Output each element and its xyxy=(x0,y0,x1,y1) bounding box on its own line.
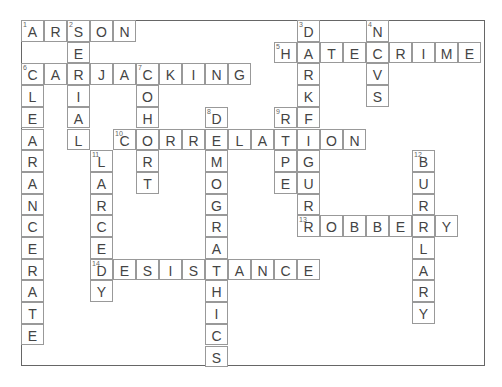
crossword-cell[interactable]: O xyxy=(320,129,343,151)
crossword-cell[interactable]: U xyxy=(297,172,320,194)
crossword-cell[interactable]: G xyxy=(205,194,228,216)
crossword-cell[interactable]: J xyxy=(90,63,113,85)
crossword-cell[interactable]: I xyxy=(412,42,435,64)
crossword-cell[interactable]: A xyxy=(90,172,113,194)
crossword-cell[interactable]: F xyxy=(297,107,320,129)
crossword-cell[interactable]: A xyxy=(21,172,44,194)
crossword-cell[interactable]: B xyxy=(366,215,389,237)
crossword-cell[interactable]: A xyxy=(21,129,44,151)
crossword-cell[interactable]: P xyxy=(274,150,297,172)
crossword-cell[interactable]: L xyxy=(21,85,44,107)
crossword-cell[interactable]: A xyxy=(251,129,274,151)
crossword-cell[interactable]: R xyxy=(67,63,90,85)
crossword-cell[interactable]: 11L xyxy=(90,150,113,172)
crossword-cell[interactable]: 12B xyxy=(412,150,435,172)
crossword-cell[interactable]: O xyxy=(136,129,159,151)
crossword-cell[interactable]: N xyxy=(205,63,228,85)
crossword-cell[interactable]: L xyxy=(412,237,435,259)
crossword-cell[interactable]: B xyxy=(343,215,366,237)
crossword-cell[interactable]: L xyxy=(228,129,251,151)
crossword-cell[interactable]: C xyxy=(205,324,228,346)
crossword-cell[interactable]: R xyxy=(90,194,113,216)
crossword-cell[interactable]: S xyxy=(136,259,159,281)
crossword-cell[interactable]: A xyxy=(113,63,136,85)
crossword-cell[interactable]: T xyxy=(205,259,228,281)
crossword-cell[interactable]: A xyxy=(67,107,90,129)
crossword-cell[interactable]: A xyxy=(297,42,320,64)
crossword-cell[interactable]: Y xyxy=(412,302,435,324)
crossword-cell[interactable]: T xyxy=(21,302,44,324)
crossword-cell[interactable]: K xyxy=(159,63,182,85)
crossword-cell[interactable]: R xyxy=(412,215,435,237)
crossword-cell[interactable]: E xyxy=(343,42,366,64)
crossword-cell[interactable]: A xyxy=(205,237,228,259)
crossword-cell[interactable]: I xyxy=(182,63,205,85)
crossword-cell[interactable]: E xyxy=(389,215,412,237)
crossword-cell[interactable]: E xyxy=(21,107,44,129)
crossword-cell[interactable]: O xyxy=(136,85,159,107)
crossword-cell[interactable]: R xyxy=(44,20,67,42)
crossword-cell[interactable]: O xyxy=(320,215,343,237)
crossword-cell[interactable]: A xyxy=(228,259,251,281)
crossword-cell[interactable]: T xyxy=(320,42,343,64)
crossword-cell[interactable]: 5H xyxy=(274,42,297,64)
crossword-cell[interactable]: H xyxy=(205,280,228,302)
crossword-cell[interactable]: E xyxy=(67,42,90,64)
crossword-cell[interactable]: I xyxy=(159,259,182,281)
crossword-cell[interactable]: M xyxy=(435,42,458,64)
crossword-cell[interactable]: 9R xyxy=(274,107,297,129)
crossword-cell[interactable]: 14D xyxy=(90,259,113,281)
crossword-cell[interactable]: R xyxy=(389,42,412,64)
crossword-cell[interactable]: S xyxy=(205,346,228,368)
crossword-cell[interactable]: I xyxy=(205,302,228,324)
crossword-cell[interactable]: N xyxy=(21,194,44,216)
crossword-cell[interactable]: 7C xyxy=(136,63,159,85)
crossword-cell[interactable]: R xyxy=(136,150,159,172)
crossword-cell[interactable]: R xyxy=(159,129,182,151)
crossword-cell[interactable]: O xyxy=(90,20,113,42)
crossword-cell[interactable]: C xyxy=(366,42,389,64)
crossword-cell[interactable]: K xyxy=(297,85,320,107)
crossword-cell[interactable]: C xyxy=(21,215,44,237)
crossword-cell[interactable]: M xyxy=(205,150,228,172)
crossword-cell[interactable]: R xyxy=(182,129,205,151)
crossword-cell[interactable]: I xyxy=(297,129,320,151)
crossword-cell[interactable]: H xyxy=(136,107,159,129)
crossword-cell[interactable]: L xyxy=(67,129,90,151)
crossword-cell[interactable]: A xyxy=(44,63,67,85)
crossword-cell[interactable]: E xyxy=(274,172,297,194)
crossword-cell[interactable]: C xyxy=(274,259,297,281)
crossword-cell[interactable]: N xyxy=(251,259,274,281)
crossword-cell[interactable]: R xyxy=(21,259,44,281)
crossword-cell[interactable]: R xyxy=(412,280,435,302)
crossword-cell[interactable]: G xyxy=(228,63,251,85)
crossword-cell[interactable]: O xyxy=(205,172,228,194)
crossword-cell[interactable]: R xyxy=(205,215,228,237)
crossword-cell[interactable]: 13R xyxy=(297,215,320,237)
crossword-cell[interactable]: 1A xyxy=(21,20,44,42)
crossword-cell[interactable]: G xyxy=(297,150,320,172)
crossword-cell[interactable]: E xyxy=(297,259,320,281)
crossword-cell[interactable]: 10C xyxy=(113,129,136,151)
crossword-cell[interactable]: S xyxy=(366,85,389,107)
crossword-cell[interactable]: U xyxy=(412,172,435,194)
crossword-cell[interactable]: E xyxy=(21,324,44,346)
crossword-cell[interactable]: Y xyxy=(435,215,458,237)
crossword-cell[interactable]: 8D xyxy=(205,107,228,129)
crossword-cell[interactable]: C xyxy=(90,215,113,237)
crossword-cell[interactable]: E xyxy=(90,237,113,259)
crossword-cell[interactable]: V xyxy=(366,63,389,85)
crossword-cell[interactable]: 4N xyxy=(366,20,389,42)
crossword-cell[interactable]: T xyxy=(274,129,297,151)
crossword-cell[interactable]: E xyxy=(21,237,44,259)
crossword-cell[interactable]: E xyxy=(205,129,228,151)
crossword-cell[interactable]: R xyxy=(297,63,320,85)
crossword-cell[interactable]: N xyxy=(113,20,136,42)
crossword-cell[interactable]: 3D xyxy=(297,20,320,42)
crossword-cell[interactable]: N xyxy=(343,129,366,151)
crossword-cell[interactable]: R xyxy=(412,194,435,216)
crossword-cell[interactable]: I xyxy=(67,85,90,107)
crossword-cell[interactable]: E xyxy=(458,42,481,64)
crossword-cell[interactable]: 6C xyxy=(21,63,44,85)
crossword-cell[interactable]: R xyxy=(297,194,320,216)
